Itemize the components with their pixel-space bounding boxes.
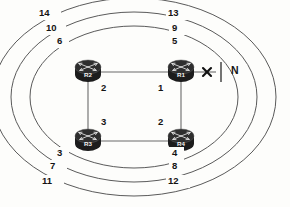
ring-label-5: 5 bbox=[172, 36, 177, 46]
ring-label-14: 14 bbox=[39, 8, 50, 18]
router-r3[interactable]: R3 bbox=[75, 129, 101, 151]
router-r1[interactable]: R1 bbox=[168, 60, 194, 82]
ring-label-3: 3 bbox=[57, 148, 62, 158]
interface-label-r2: 2 bbox=[101, 83, 106, 93]
ring-label-12: 12 bbox=[168, 176, 179, 186]
ring-label-11: 11 bbox=[42, 176, 52, 186]
router-r2[interactable]: R2 bbox=[75, 60, 101, 82]
router-r4-label: R4 bbox=[177, 140, 185, 147]
network-diagram: R2 R1 R3 bbox=[0, 0, 290, 207]
ring-middle bbox=[11, 12, 257, 182]
interface-label-r3: 3 bbox=[101, 117, 106, 127]
ring-group bbox=[0, 0, 276, 196]
ring-label-13: 13 bbox=[168, 8, 179, 18]
router-r1-label: R1 bbox=[177, 71, 185, 78]
ring-label-8: 8 bbox=[172, 161, 177, 171]
ring-label-10: 10 bbox=[46, 23, 57, 33]
ring-outer bbox=[0, 0, 276, 196]
router-r2-label: R2 bbox=[84, 71, 92, 78]
interface-label-r1: 1 bbox=[158, 83, 163, 93]
link-group bbox=[88, 72, 216, 141]
ring-label-9: 9 bbox=[172, 23, 177, 33]
network-label-n: N bbox=[231, 65, 239, 76]
ring-label-4: 4 bbox=[172, 148, 177, 158]
ring-label-7: 7 bbox=[50, 161, 55, 171]
interface-label-r4: 2 bbox=[158, 117, 163, 127]
router-r3-label: R3 bbox=[84, 140, 92, 147]
ring-label-6: 6 bbox=[57, 36, 62, 46]
